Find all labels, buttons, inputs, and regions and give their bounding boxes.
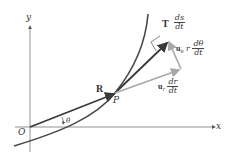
origin-label: O [18,128,25,137]
polar-velocity-diagram: y x O θ P R T dsdt uθ r dθdt ur drdt [0,0,231,159]
position-vector-label: R [96,84,103,94]
y-axis-label: y [26,13,31,22]
right-angle-mark [151,36,160,51]
diagram-graphics [0,0,231,159]
angle-arc [62,117,63,124]
angle-label: θ [66,118,70,125]
tangent-label: T dsdt [162,14,185,31]
position-vector-R [30,94,114,127]
transverse-label: uθ r dθdt [176,40,204,57]
radial-label: ur drdt [158,78,178,95]
point-label: P [113,96,119,105]
x-axis-label: x [216,122,221,131]
